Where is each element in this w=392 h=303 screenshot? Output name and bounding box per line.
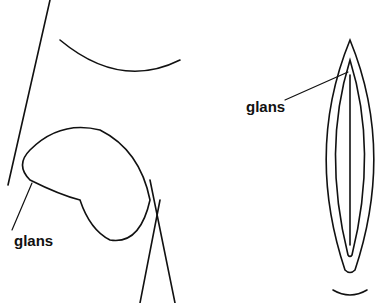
line-drawing (0, 0, 392, 303)
diagram-canvas: glans glans (0, 0, 392, 303)
glans-label-right: glans (246, 98, 285, 115)
glans-label-left: glans (14, 232, 53, 249)
